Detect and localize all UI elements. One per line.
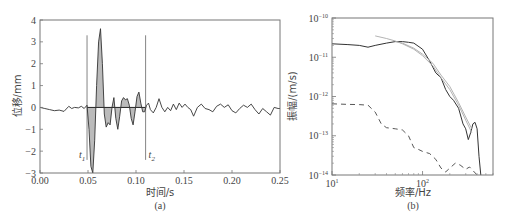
plot-frame [332,18,493,175]
noise-spectrum-line [332,104,477,175]
y-axis-label: 位移/mm [11,75,23,118]
x-tick-label: 0.15 [175,175,193,186]
y-tick-label: 4 [31,15,36,26]
y-axis-label: 振幅/(m/s) [286,71,298,121]
t1-label: t1 [79,149,85,163]
x-tick-label: 0.10 [127,175,145,186]
x-axis-label: 频率/Hz [395,186,431,198]
axis-ticks: 10−1010−1110−1210−1310−14101102 [309,13,493,190]
x-tick-label: 101 [326,178,339,189]
x-tick-label: 0.25 [271,175,289,186]
x-axis-label: 时间/s [146,186,175,198]
panel-b-chart: 10−1010−1110−1210−1310−14101102 振幅/(m/s)… [286,13,493,213]
plot-frame [40,20,280,173]
t2-label: t2 [149,149,156,163]
y-tick-label: 10−13 [309,130,328,141]
panel-a-chart: 0.000.050.100.150.200.2543210−1−2−3 t1 t… [11,15,289,213]
y-tick-label: 0 [31,102,36,113]
y-tick-label: 1 [31,80,36,91]
signal-spectrum-line [332,42,481,175]
y-tick-label: 10−10 [309,13,328,24]
y-tick-label: 10−11 [309,52,328,63]
spectrum-lines [332,36,481,175]
figure: 0.000.050.100.150.200.2543210−1−2−3 t1 t… [0,0,507,224]
panel-caption: (a) [154,200,165,212]
axis-ticks: 0.000.050.100.150.200.2543210−1−2−3 [25,15,288,187]
panel-caption: (b) [407,200,419,212]
y-tick-label: 2 [31,58,36,69]
y-tick-label: 3 [31,36,36,47]
y-tick-label: −3 [25,168,36,179]
x-tick-label: 0.20 [223,175,241,186]
y-tick-label: −2 [25,146,36,157]
y-tick-label: 10−12 [309,91,328,102]
x-tick-label: 0.05 [79,175,97,186]
displacement-line [40,29,280,173]
y-tick-label: −1 [25,124,36,135]
